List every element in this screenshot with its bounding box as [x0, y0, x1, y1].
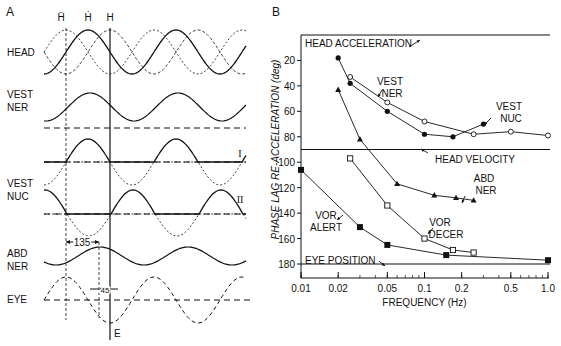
- filled-square-marker-icon: [545, 257, 551, 263]
- figure: A Ḧ Ḣ H HEAD VEST NER VEST NUC ABD NER E…: [0, 0, 561, 346]
- type-2-label: II: [237, 194, 244, 205]
- x-tick-label: 0.5: [504, 283, 518, 294]
- filled-square-marker-icon: [357, 224, 363, 230]
- y-axis-title: PHASE LAG RE-ACCELERATION (deg): [270, 60, 281, 240]
- abd-ner-label-1: ABD: [474, 173, 495, 184]
- abd-ner-label-2: NER: [475, 185, 496, 196]
- filled-circle-marker-icon: [450, 134, 455, 139]
- head-acceleration-label: HEAD ACCELERATION: [305, 38, 412, 49]
- type1-firing-wave: [44, 139, 246, 162]
- x-tick-label: 0.05: [378, 283, 398, 294]
- x-tick-label: 0.2: [455, 283, 469, 294]
- filled-square-marker-icon: [298, 167, 304, 173]
- filled-triangle-marker-icon: [357, 136, 363, 141]
- vor-alert-label-2: ALERT: [310, 222, 342, 233]
- open-square-marker-icon: [450, 247, 455, 252]
- type2-firing-wave: [44, 190, 246, 214]
- row-label-vest-nuc-1: VEST: [7, 178, 33, 189]
- arrowhead-icon: [95, 240, 99, 244]
- open-square-marker-icon: [385, 203, 390, 208]
- y-tick-label: 40: [284, 81, 296, 92]
- panel-a: A Ḧ Ḣ H HEAD VEST NER VEST NUC ABD NER E…: [6, 5, 250, 340]
- x-tick-label: 1.0: [541, 283, 555, 294]
- head-velocity-wave: [44, 30, 246, 74]
- row-label-abd-ner-2: NER: [7, 261, 28, 272]
- y-tick-label: 80: [284, 132, 296, 143]
- vor-alert-label-1: VOR: [315, 210, 337, 221]
- series-line: [338, 90, 473, 201]
- y-tick-label: 20: [284, 55, 296, 66]
- open-circle-marker-icon: [471, 132, 476, 137]
- series-line: [338, 58, 483, 137]
- filled-circle-marker-icon: [385, 109, 390, 114]
- row-label-head: HEAD: [7, 47, 35, 58]
- panel-a-label: A: [6, 5, 14, 19]
- head-position-wave: [44, 30, 246, 74]
- eye-lag-annotation: 45: [101, 286, 110, 295]
- vest-nuc-label-2: NUC: [500, 113, 522, 124]
- row-label-abd-ner-1: ABD: [7, 248, 28, 259]
- x-axis-title: FREQUENCY (Hz): [382, 297, 466, 308]
- head-accel-label: Ḧ: [57, 12, 64, 23]
- filled-circle-marker-icon: [422, 132, 427, 137]
- marker-e-label: E: [114, 328, 121, 339]
- head-vel-label: Ḣ: [84, 11, 91, 23]
- filled-square-marker-icon: [384, 242, 390, 248]
- phase-lag-chart: 204060801001201401601800.010.020.050.10.…: [270, 35, 555, 308]
- x-tick-label: 0.01: [291, 283, 311, 294]
- open-square-marker-icon: [471, 250, 476, 255]
- filled-square-marker-icon: [443, 252, 449, 258]
- head-velocity-label: HEAD VELOCITY: [435, 154, 515, 165]
- y-tick-label: 180: [278, 259, 295, 270]
- waveforms: [44, 28, 250, 340]
- type1-silent-wave: [44, 162, 246, 185]
- vor-decer-label-1: VOR: [429, 217, 451, 228]
- row-label-vest-ner-1: VEST: [7, 89, 33, 100]
- panel-b: B 204060801001201401601800.010.020.050.1…: [270, 5, 555, 308]
- arrowhead-icon: [66, 240, 70, 244]
- vest-ner-label-1: VEST: [377, 76, 403, 87]
- filled-triangle-marker-icon: [335, 87, 341, 92]
- open-square-marker-icon: [422, 236, 427, 241]
- x-tick-label: 0.02: [328, 283, 348, 294]
- open-circle-marker-icon: [385, 100, 390, 105]
- filled-circle-marker-icon: [348, 81, 353, 86]
- open-circle-marker-icon: [508, 129, 513, 134]
- eye-position-label: EYE POSITION: [305, 255, 376, 266]
- abd-ner-wave: [44, 247, 246, 265]
- abd-lag-annotation: 135: [74, 237, 91, 248]
- open-square-marker-icon: [348, 156, 353, 161]
- series-line: [301, 170, 548, 260]
- row-label-vest-nuc-2: NUC: [7, 191, 29, 202]
- type-1-label: I: [238, 148, 241, 159]
- panel-b-label: B: [272, 5, 280, 19]
- head-pos-label: H: [106, 12, 113, 23]
- x-tick-label: 0.1: [418, 283, 432, 294]
- vor-decer-label-2: DECER: [428, 229, 463, 240]
- y-tick-label: 60: [284, 106, 296, 117]
- row-label-vest-ner-2: NER: [7, 102, 28, 113]
- open-circle-marker-icon: [422, 119, 427, 124]
- vest-nuc-label-1: VEST: [496, 101, 522, 112]
- vest-ner-wave: [44, 93, 246, 121]
- vest-ner-label-2: NER: [381, 88, 402, 99]
- head-acceleration-wave: [44, 30, 246, 74]
- open-circle-marker-icon: [546, 133, 551, 138]
- type2-silent-wave: [44, 214, 246, 236]
- row-label-eye: EYE: [7, 294, 27, 305]
- filled-circle-marker-icon: [336, 55, 341, 60]
